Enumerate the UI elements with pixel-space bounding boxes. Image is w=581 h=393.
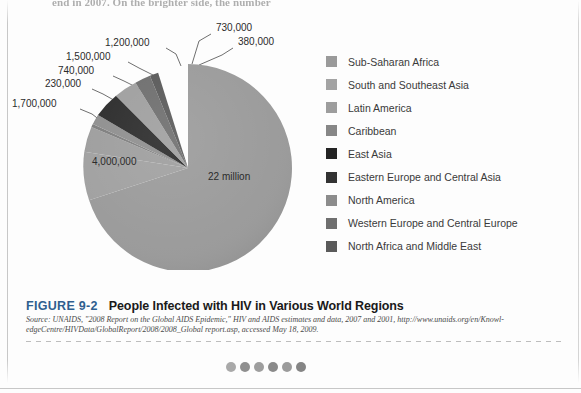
legend-swatch-icon bbox=[326, 56, 337, 67]
footer-dot bbox=[296, 362, 306, 372]
chart-legend: Sub-Saharan Africa South and Southeast A… bbox=[326, 50, 566, 258]
legend-swatch-icon bbox=[326, 195, 337, 206]
legend-label: Sub-Saharan Africa bbox=[348, 56, 439, 68]
callout-730000: 730,000 bbox=[216, 22, 252, 33]
figure-source-line-2: edgeCentre/HIVData/GlobalReport/2008/200… bbox=[26, 325, 566, 335]
page-edge-bottom bbox=[0, 388, 581, 389]
footer-dot bbox=[226, 362, 236, 372]
legend-item-east-asia[interactable]: East Asia bbox=[326, 142, 566, 165]
callout-230000: 230,000 bbox=[45, 78, 81, 89]
slice-label-22-million: 22 million bbox=[208, 171, 250, 182]
legend-label: Eastern Europe and Central Asia bbox=[348, 171, 501, 183]
callout-1200000: 1,200,000 bbox=[105, 37, 150, 48]
callout-740000: 740,000 bbox=[58, 65, 94, 76]
legend-swatch-icon bbox=[326, 172, 337, 183]
legend-swatch-icon bbox=[326, 79, 337, 90]
slice-label-4000000: 4,000,000 bbox=[92, 156, 137, 167]
figure-source-line-1: Source: UNAIDS, "2008 Report on the Glob… bbox=[26, 315, 566, 325]
footer-dot-group bbox=[226, 362, 306, 372]
callout-1700000: 1,700,000 bbox=[12, 98, 57, 109]
legend-item-eastern-europe-and-central-asia[interactable]: Eastern Europe and Central Asia bbox=[326, 165, 566, 188]
legend-label: Caribbean bbox=[348, 125, 396, 137]
callout-380000: 380,000 bbox=[238, 36, 274, 47]
page-body-text-fragment: end in 2007. On the brighter side, the n… bbox=[52, 0, 271, 8]
scanned-page: end in 2007. On the brighter side, the n… bbox=[0, 0, 581, 393]
legend-item-south-and-southeast-asia[interactable]: South and Southeast Asia bbox=[326, 73, 566, 96]
legend-swatch-icon bbox=[326, 148, 337, 159]
legend-swatch-icon bbox=[326, 218, 337, 229]
legend-item-caribbean[interactable]: Caribbean bbox=[326, 119, 566, 142]
legend-swatch-icon bbox=[326, 241, 337, 252]
legend-label: North Africa and Middle East bbox=[348, 240, 481, 252]
legend-label: Western Europe and Central Europe bbox=[348, 217, 518, 229]
figure-title: People Infected with HIV in Various Worl… bbox=[109, 299, 404, 313]
legend-swatch-icon bbox=[326, 125, 337, 136]
footer-dot bbox=[282, 362, 292, 372]
footer-dot bbox=[268, 362, 278, 372]
legend-swatch-icon bbox=[326, 102, 337, 113]
footer-dot bbox=[240, 362, 250, 372]
figure-number: FIGURE 9-2 bbox=[26, 299, 98, 313]
legend-label: East Asia bbox=[348, 148, 392, 160]
legend-item-north-africa-and-middle-east[interactable]: North Africa and Middle East bbox=[326, 235, 566, 258]
legend-item-western-europe-and-central-europe[interactable]: Western Europe and Central Europe bbox=[326, 212, 566, 235]
callout-1500000: 1,500,000 bbox=[66, 51, 111, 62]
footer-dot bbox=[254, 362, 264, 372]
figure-caption: FIGURE 9-2 People Infected with HIV in V… bbox=[26, 299, 566, 334]
legend-item-sub-saharan-africa[interactable]: Sub-Saharan Africa bbox=[326, 50, 566, 73]
legend-label: Latin America bbox=[348, 102, 412, 114]
legend-label: North America bbox=[348, 194, 415, 206]
figure-caption-line: FIGURE 9-2 People Infected with HIV in V… bbox=[26, 299, 566, 313]
dashed-divider bbox=[26, 341, 562, 342]
legend-label: South and Southeast Asia bbox=[348, 79, 469, 91]
legend-item-latin-america[interactable]: Latin America bbox=[326, 96, 566, 119]
legend-item-north-america[interactable]: North America bbox=[326, 189, 566, 212]
